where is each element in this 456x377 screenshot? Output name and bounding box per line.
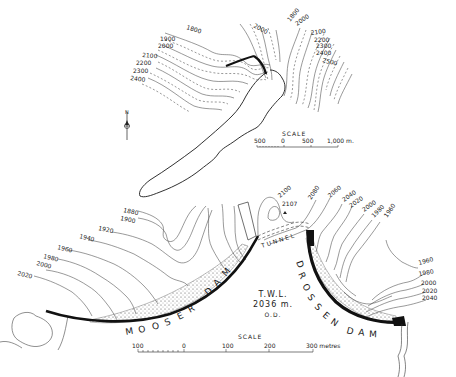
svg-text:2300: 2300 [316, 42, 331, 49]
svg-text:2040: 2040 [422, 294, 437, 301]
upper-contour-labels-top: 2000 1800 2000 [253, 6, 311, 35]
lower-scale-bar: SCALE 100 0 100 200 300 metres [132, 333, 340, 352]
svg-text:1960: 1960 [57, 243, 74, 254]
upper-reservoir-outline [139, 70, 285, 197]
svg-text:1920: 1920 [98, 224, 115, 234]
shore-line [58, 316, 68, 350]
svg-text:2020: 2020 [17, 269, 34, 280]
lower-contour-labels-right-upper: 2040 2020 2000 1980 1960 [341, 188, 397, 218]
river-channel [398, 322, 408, 377]
svg-text:N: N [125, 109, 129, 115]
dam-site-map: 1800 1900 2000 2100 2200 2300 2400 2000 … [0, 0, 456, 377]
svg-text:M: M [369, 329, 382, 339]
svg-text:100: 100 [222, 342, 234, 349]
svg-text:2000: 2000 [158, 42, 173, 49]
upper-map: 1800 1900 2000 2100 2200 2300 2400 2000 … [124, 6, 354, 196]
svg-text:2107: 2107 [282, 200, 297, 207]
twl-title: T.W.L. [243, 290, 303, 300]
svg-text:SCALE: SCALE [282, 130, 306, 137]
svg-text:2300: 2300 [133, 67, 148, 74]
svg-text:0: 0 [281, 137, 285, 144]
svg-text:2080: 2080 [306, 184, 321, 201]
svg-text:TUNNEL: TUNNEL [259, 231, 297, 249]
twl-datum: O.D. [243, 310, 303, 320]
svg-text:500: 500 [302, 137, 314, 144]
upper-contour-labels-right: 2100 2200 2300 2400 2500 [310, 27, 338, 67]
lower-contours-right [316, 204, 426, 318]
svg-text:2100: 2100 [276, 183, 292, 198]
svg-text:200: 200 [264, 342, 276, 349]
lower-contours-left [34, 204, 246, 322]
left-shoreline [0, 312, 52, 348]
svg-text:1960: 1960 [417, 255, 434, 266]
svg-text:2400: 2400 [130, 74, 146, 83]
lower-map: 1880 1900 1920 1940 1960 1980 2000 2020 [0, 183, 437, 377]
svg-text:2000: 2000 [421, 279, 436, 286]
upper-contours-top [240, 24, 280, 80]
svg-text:O: O [137, 323, 151, 335]
spillway-structure [238, 202, 256, 240]
svg-text:1940: 1940 [79, 232, 96, 243]
svg-text:2500: 2500 [322, 56, 339, 67]
svg-text:1,000 m.: 1,000 m. [327, 137, 354, 144]
lower-contour-labels-left: 1880 1900 1920 1940 1960 1980 2000 2020 [17, 206, 140, 280]
svg-text:1900: 1900 [160, 35, 175, 42]
svg-text:SCALE: SCALE [238, 333, 262, 340]
top-water-level-label: T.W.L. 2036 m. O.D. [243, 290, 303, 320]
svg-text:2100: 2100 [310, 27, 326, 36]
svg-text:2000: 2000 [253, 22, 270, 35]
svg-text:1980: 1980 [418, 267, 434, 277]
svg-text:0: 0 [182, 342, 186, 349]
svg-text:2020: 2020 [422, 287, 437, 294]
svg-text:1960: 1960 [382, 202, 397, 219]
svg-text:100: 100 [132, 342, 144, 349]
summit-triangle-icon [283, 211, 287, 214]
svg-text:2400: 2400 [316, 49, 331, 56]
north-arrow-icon: N [124, 109, 130, 140]
svg-text:300 metres: 300 metres [306, 342, 340, 349]
lower-contour-labels-right-lower: 1960 1980 2000 2020 2040 [417, 255, 437, 301]
svg-text:2200: 2200 [136, 59, 151, 66]
upper-contour-labels-left: 1800 1900 2000 2100 2200 2300 2400 [130, 23, 203, 83]
svg-text:500: 500 [254, 137, 266, 144]
upper-scale-bar: SCALE 500 0 500 1,000 m. [254, 130, 354, 147]
svg-text:1900: 1900 [120, 214, 137, 224]
lower-contour-labels-center: 2100 2107 2080 2060 [276, 183, 342, 214]
svg-text:1800: 1800 [186, 23, 203, 34]
twl-value: 2036 m. [243, 300, 303, 310]
tunnel: TUNNEL [258, 222, 310, 249]
